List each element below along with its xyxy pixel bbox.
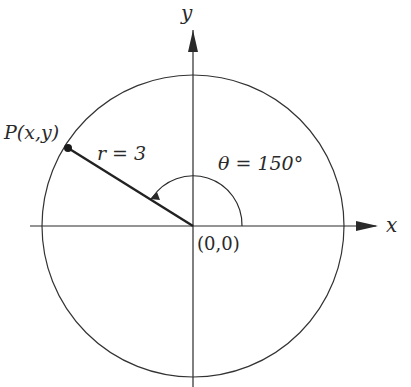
origin-label: (0,0) [197, 233, 240, 254]
x-axis-arrow-icon [356, 221, 378, 231]
point-label: P(x,y) [3, 121, 59, 143]
point-p [64, 144, 72, 152]
x-axis-label: x [386, 213, 397, 237]
y-axis-arrow-icon [188, 30, 198, 52]
angle-label: θ = 150° [218, 152, 303, 174]
unit-circle-diagram: y x (0,0) P(x,y) r = 3 θ = 150° [0, 0, 411, 387]
radius-label: r = 3 [97, 142, 146, 164]
angle-arc [152, 176, 242, 226]
y-axis-label: y [180, 1, 193, 25]
